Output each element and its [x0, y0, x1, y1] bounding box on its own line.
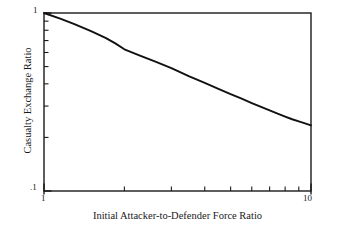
figure-background [0, 0, 346, 233]
y-axis-title: Casualty Exchange Ratio [22, 11, 33, 191]
chart-figure: 1 .1 1 10 Initial Attacker-to-Defender F… [0, 0, 346, 233]
x-axis-tick-label-min: 1 [41, 194, 46, 203]
x-axis-tick-label-max: 10 [303, 194, 312, 203]
y-axis-tick-label-max: 1 [33, 6, 38, 15]
x-axis-title: Initial Attacker-to-Defender Force Ratio [44, 210, 311, 221]
plot-canvas [0, 0, 346, 233]
